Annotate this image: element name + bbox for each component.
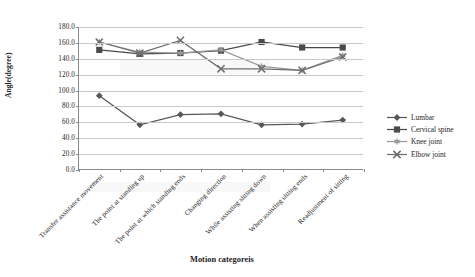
y-axis-tick-label: 0.0 <box>66 166 79 174</box>
gridline <box>79 27 363 28</box>
gridline <box>79 91 363 92</box>
y-axis-tick-label: 60.0 <box>62 118 79 126</box>
legend-item-lumbar[interactable]: Lumbar <box>386 113 453 122</box>
legend-label: Elbow joint <box>411 150 446 159</box>
x-axis-category-label: The point at which standing ends <box>112 171 185 244</box>
chart-figure: Angle(degree) 0.020.040.060.080.0100.012… <box>0 0 475 277</box>
legend-item-cervical-spine[interactable]: Cervical spine <box>386 125 453 134</box>
x-axis-category-label: Changing direction <box>181 171 226 216</box>
x-axis-title: Motion categoreis <box>190 255 254 264</box>
y-axis-tick-label: 20.0 <box>62 150 79 158</box>
series-line <box>99 40 342 70</box>
x-axis-tickmark <box>283 169 284 172</box>
legend-item-elbow-joint[interactable]: Elbow joint <box>386 150 453 159</box>
legend-label: Cervical spine <box>411 125 453 134</box>
data-point-marker <box>340 44 346 50</box>
legend-marker-icon <box>386 137 408 146</box>
gridline <box>79 106 363 107</box>
gridline <box>79 43 363 44</box>
y-axis-tick-label: 100.0 <box>58 87 79 95</box>
data-point-marker <box>394 114 401 121</box>
y-axis-tick-label: 120.0 <box>58 71 79 79</box>
series-line <box>99 96 342 125</box>
plot-area: 0.020.040.060.080.0100.0120.0140.0160.01… <box>78 27 363 170</box>
x-axis-tickmark <box>242 169 243 172</box>
legend-item-knee-joint[interactable]: Knee joint <box>386 137 453 146</box>
x-axis-tickmark <box>323 169 324 172</box>
y-axis-tick-label: 180.0 <box>58 23 79 31</box>
x-axis-tickmark <box>201 169 202 172</box>
series-layer <box>79 27 363 169</box>
x-axis-tickmark <box>79 169 80 172</box>
gridline <box>79 138 363 139</box>
legend-marker-icon <box>386 113 408 122</box>
legend-marker-icon <box>386 150 408 159</box>
data-point-marker <box>96 47 102 53</box>
data-point-marker <box>218 110 225 117</box>
y-axis-tick-label: 140.0 <box>58 55 79 63</box>
gridline <box>79 59 363 60</box>
x-axis-tickmark <box>364 169 365 172</box>
y-axis-tick-label: 160.0 <box>58 39 79 47</box>
gridline <box>79 154 363 155</box>
data-point-marker <box>177 111 184 118</box>
x-axis-tickmark <box>120 169 121 172</box>
y-axis-tick-label: 80.0 <box>62 102 79 110</box>
data-point-marker <box>299 44 305 50</box>
data-point-marker <box>394 127 400 133</box>
legend-label: Lumbar <box>411 113 434 122</box>
legend-label: Knee joint <box>411 137 442 146</box>
gridline <box>79 122 363 123</box>
y-axis-tick-label: 40.0 <box>62 134 79 142</box>
x-axis-tickmark <box>160 169 161 172</box>
gridline <box>79 75 363 76</box>
chart-legend: LumbarCervical spineKnee jointElbow join… <box>386 113 453 159</box>
y-axis-title: Angle(degree) <box>4 53 13 98</box>
x-axis-category-label: Transfer assistance movement <box>37 171 104 238</box>
legend-marker-icon <box>386 125 408 134</box>
